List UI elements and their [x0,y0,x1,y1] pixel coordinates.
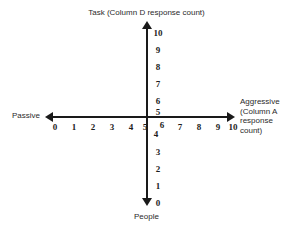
y-tick-label: 1 [151,182,165,191]
x-axis-line [52,116,228,118]
x-tick-label: 4 [124,123,138,132]
y-axis-line [146,27,148,199]
y-tick-label: 9 [151,46,165,55]
x-tick-label: 0 [48,123,62,132]
x-axis-positive-title: Aggressive (Column A response count) [240,97,293,135]
y-tick-label: 3 [151,148,165,157]
chart-canvas: Task (Column D response count) People Pa… [0,0,293,232]
y-tick-label: 6 [151,97,165,106]
y-tick-label: 10 [151,29,165,38]
x-tick-label: 2 [86,123,100,132]
x-tick-label: 3 [105,123,119,132]
y-tick-label: 0 [151,199,165,208]
y-axis-negative-title: People [0,212,293,222]
y-tick-label: 7 [151,80,165,89]
x-tick-label: 1 [67,123,81,132]
x-axis-positive-title-line-4: count) [240,126,293,136]
x-tick-label: 5 [138,123,152,132]
y-tick-label: 2 [151,165,165,174]
y-axis-positive-title: Task (Column D response count) [0,8,293,18]
arrow-right-icon [227,112,235,122]
x-tick-label: 8 [192,123,206,132]
arrow-left-icon [45,112,53,122]
x-tick-label: 9 [211,123,225,132]
arrow-up-icon [142,21,152,29]
x-tick-label: 10 [226,123,240,132]
y-tick-label: 8 [151,63,165,72]
x-tick-label: 6 [155,121,169,130]
x-axis-positive-title-line-3: response [240,116,293,126]
x-tick-label: 7 [173,123,187,132]
x-axis-negative-title: Passive [12,111,40,121]
x-axis-positive-title-line-2: (Column A [240,107,293,117]
x-axis-positive-title-line-1: Aggressive [240,97,293,107]
y-tick-label: 5 [151,108,165,117]
